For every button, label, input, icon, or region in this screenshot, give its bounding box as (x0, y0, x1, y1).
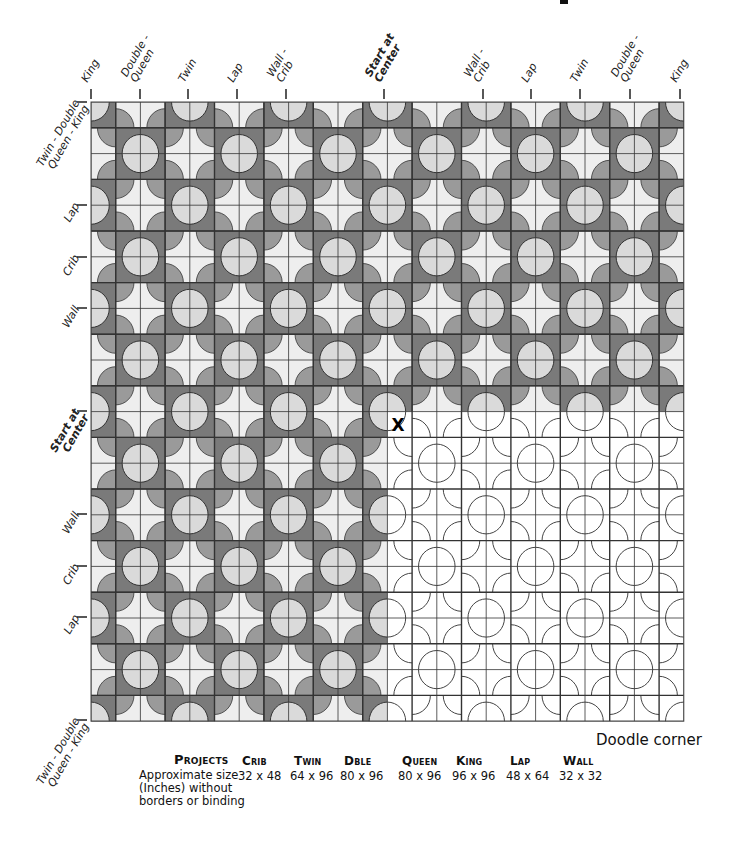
table-cell-wall-size: 32 x 32 (559, 770, 602, 783)
doodle-corner-label: Doodle corner (596, 731, 702, 749)
table-header-queen: Queen (402, 754, 437, 768)
table-header-lap: Lap (510, 754, 530, 768)
table-cell-lap-size: 48 x 64 (506, 770, 549, 783)
table-header-crib: Crib (242, 754, 267, 768)
quilt-diagram: X (0, 0, 729, 844)
table-cell-king-size: 96 x 96 (452, 770, 495, 783)
table-cell-queen-size: 80 x 96 (398, 770, 441, 783)
table-cell-dble-size: 80 x 96 (340, 770, 383, 783)
table-header-wall: Wall (563, 754, 593, 768)
table-cell-crib-size: 32 x 48 (238, 770, 281, 783)
center-x-mark: X (391, 415, 404, 435)
table-row-label: Approximate size (Inches) without border… (139, 769, 245, 808)
table-header-projects: Projects (174, 752, 228, 767)
table-header-dble: Dble (344, 754, 371, 768)
table-cell-twin-size: 64 x 96 (290, 770, 333, 783)
table-header-king: King (456, 754, 482, 768)
table-header-twin: Twin (294, 754, 321, 768)
